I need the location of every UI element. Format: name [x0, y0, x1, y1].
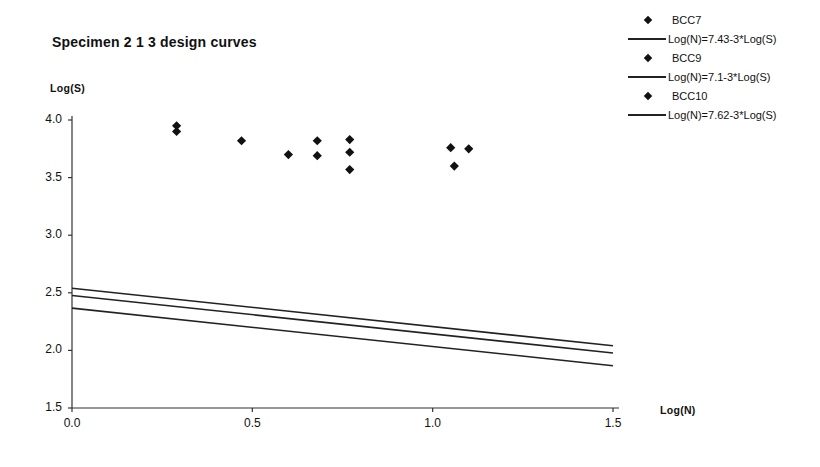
legend-item[interactable]: BCC7: [628, 10, 818, 29]
data-point-marker: [172, 127, 181, 136]
y-tick-label: 2.5: [28, 285, 62, 299]
data-point-marker: [464, 144, 473, 153]
legend-item-label: BCC7: [668, 14, 701, 26]
data-point-marker: [284, 150, 293, 159]
legend-line-key: [628, 38, 668, 40]
diamond-marker-icon: [644, 53, 652, 61]
data-point-marker: [237, 136, 246, 145]
x-tick-label: 0.0: [52, 416, 92, 430]
data-point-marker: [313, 136, 322, 145]
legend-item[interactable]: Log(N)=7.1-3*Log(S): [628, 67, 818, 86]
legend-item[interactable]: BCC9: [628, 48, 818, 67]
legend-item-label: BCC10: [668, 90, 707, 102]
diamond-marker-icon: [644, 15, 652, 23]
legend-item-label: Log(N)=7.43-3*Log(S): [668, 33, 777, 45]
data-point-marker: [450, 161, 459, 170]
line-swatch-icon: [628, 114, 666, 116]
legend-item-label: Log(N)=7.62-3*Log(S): [668, 109, 777, 121]
legend-item[interactable]: Log(N)=7.62-3*Log(S): [628, 105, 818, 124]
legend-item[interactable]: BCC10: [628, 86, 818, 105]
x-tick-label: 1.0: [413, 416, 453, 430]
line-swatch-icon: [628, 76, 666, 78]
legend-line-key: [628, 76, 668, 78]
design-curve-line: [72, 295, 613, 353]
x-tick-label: 0.5: [232, 416, 272, 430]
y-tick-label: 3.5: [28, 170, 62, 184]
data-point-marker: [345, 135, 354, 144]
legend-item-label: BCC9: [668, 52, 701, 64]
legend-item[interactable]: Log(N)=7.43-3*Log(S): [628, 29, 818, 48]
legend-marker-key: [628, 93, 668, 99]
data-point-marker: [313, 151, 322, 160]
chart-figure: Specimen 2 1 3 design curves Log(S) Log(…: [0, 0, 820, 467]
y-tick-label: 4.0: [28, 112, 62, 126]
legend-marker-key: [628, 55, 668, 61]
chart-legend: BCC7Log(N)=7.43-3*Log(S)BCC9Log(N)=7.1-3…: [628, 10, 818, 124]
line-swatch-icon: [628, 38, 666, 40]
data-point-marker: [345, 165, 354, 174]
y-tick-label: 1.5: [28, 400, 62, 414]
legend-item-label: Log(N)=7.1-3*Log(S): [668, 71, 770, 83]
x-tick-label: 1.5: [593, 416, 633, 430]
y-tick-label: 2.0: [28, 342, 62, 356]
legend-line-key: [628, 114, 668, 116]
data-point-marker: [345, 148, 354, 157]
data-point-marker: [446, 143, 455, 152]
legend-marker-key: [628, 17, 668, 23]
y-tick-label: 3.0: [28, 227, 62, 241]
diamond-marker-icon: [644, 91, 652, 99]
